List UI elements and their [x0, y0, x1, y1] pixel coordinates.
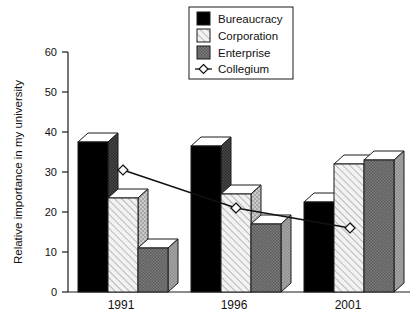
- y-tick-label-10: 10: [45, 246, 57, 258]
- legend-item-corporation[interactable]: Corporation: [197, 29, 278, 42]
- legend-label-corporation: Corporation: [218, 30, 278, 42]
- legend-swatch-bureaucracy-icon: [197, 12, 210, 25]
- legend-label-collegium: Collegium: [218, 63, 269, 75]
- legend-item-enterprise[interactable]: Enterprise: [197, 46, 270, 59]
- chart-legend: Bureaucracy Corporation Enterprise Colle…: [189, 7, 293, 79]
- y-tick-label-30: 30: [45, 166, 57, 178]
- bar-group-2001: [304, 151, 404, 292]
- y-tick-label-20: 20: [45, 206, 57, 218]
- legend-item-bureaucracy[interactable]: Bureaucracy: [197, 12, 283, 25]
- collegium-marker-1991: [118, 165, 128, 175]
- legend-swatch-enterprise-icon: [197, 46, 210, 59]
- bar-enterprise-2001: [364, 151, 404, 292]
- legend-label-bureaucracy: Bureaucracy: [218, 13, 283, 25]
- y-tick-label-40: 40: [45, 126, 57, 138]
- y-tick-label-50: 50: [45, 86, 57, 98]
- bar-chart-svg: 0 10 20 30 40 50 60 Relative importance …: [0, 0, 415, 321]
- y-axis-title: Relative importance in my university: [12, 80, 24, 264]
- bar-enterprise-1991: [138, 239, 178, 292]
- chart-canvas: 0 10 20 30 40 50 60 Relative importance …: [0, 0, 415, 321]
- x-tick-label-1996: 1996: [221, 298, 248, 312]
- bar-enterprise-1996: [251, 215, 291, 292]
- legend-swatch-corporation-icon: [197, 29, 210, 42]
- y-tick-label-0: 0: [51, 286, 57, 298]
- legend-label-enterprise: Enterprise: [218, 47, 270, 59]
- y-tick-label-60: 60: [45, 46, 57, 58]
- x-axis-labels: 1991 1996 2001: [108, 298, 362, 312]
- bar-group-1991: [78, 133, 178, 292]
- x-tick-label-1991: 1991: [108, 298, 135, 312]
- x-tick-label-2001: 2001: [335, 298, 362, 312]
